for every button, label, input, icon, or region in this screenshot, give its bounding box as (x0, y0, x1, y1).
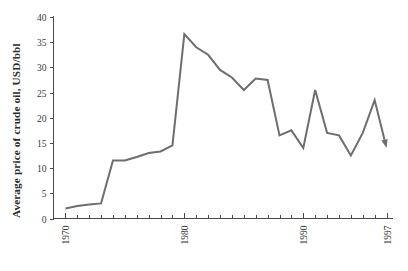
y-tick-label-40: 40 (37, 13, 47, 23)
x-tick-label-1997: 1997 (383, 225, 393, 244)
series-end-arrow-icon (381, 139, 387, 148)
crude-oil-price-chart: Average price of crude oil, USD/bbl 0510… (0, 0, 408, 271)
price-line-series (65, 34, 384, 208)
y-tick-label-25: 25 (37, 89, 47, 99)
y-axis-ticks (50, 18, 54, 220)
chart-canvas: Average price of crude oil, USD/bbl 0510… (0, 0, 408, 271)
x-axis-minor-ticks (66, 215, 388, 219)
x-axis: 1970198019901997 (54, 213, 393, 245)
x-axis-tick-labels: 1970198019901997 (61, 225, 393, 244)
y-tick-label-30: 30 (37, 63, 47, 73)
data-series-group (65, 34, 387, 208)
y-tick-label-0: 0 (42, 215, 47, 225)
y-tick-label-15: 15 (37, 139, 47, 149)
y-tick-label-10: 10 (37, 164, 47, 174)
y-axis-label-text: Average price of crude oil, USD/bbl (10, 43, 22, 218)
y-tick-label-5: 5 (42, 189, 47, 199)
y-axis-tick-labels: 0510152025303540 (37, 13, 47, 225)
y-axis: 0510152025303540 (37, 13, 54, 225)
x-tick-label-1990: 1990 (299, 225, 309, 244)
y-axis-label: Average price of crude oil, USD/bbl (10, 43, 22, 218)
y-tick-label-20: 20 (37, 114, 47, 124)
y-tick-label-35: 35 (37, 38, 47, 48)
x-tick-label-1970: 1970 (61, 225, 71, 244)
x-tick-label-1980: 1980 (180, 225, 190, 244)
